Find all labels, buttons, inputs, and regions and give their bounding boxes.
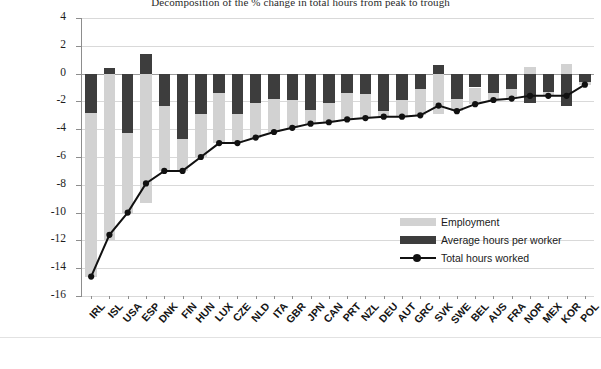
x-tick-label-deu: DEU [376,300,400,325]
total-hours-marker [161,168,167,174]
y-tick-label--12: -12 [8,232,66,244]
x-tick-mark [457,296,458,299]
y-tick-label-2: 2 [8,38,66,50]
x-tick-label-grc: GRC [412,300,437,325]
legend-item-employment: Employment [400,213,600,231]
total-hours-marker [381,114,387,120]
total-hours-marker [179,168,185,174]
x-tick-mark [347,296,348,299]
chart-legend: Employment Average hours per worker Tota… [400,213,600,267]
total-hours-marker [307,121,313,127]
legend-item-average-hours: Average hours per worker [400,231,600,249]
x-tick-label-irl: IRL [87,300,107,321]
chart-title: Decomposition of the % change in total h… [0,0,601,8]
x-tick-mark [91,296,92,299]
x-tick-mark [439,296,440,299]
total-hours-marker [125,210,131,216]
x-tick-mark [128,296,129,299]
x-tick-label-pol: POL [577,300,600,324]
y-tick-label--8: -8 [8,177,66,189]
x-tick-mark [420,296,421,299]
legend-label-employment: Employment [441,216,499,228]
x-tick-label-gbr: GBR [284,300,309,325]
x-tick-mark [365,296,366,299]
total-hours-marker [563,93,569,99]
total-hours-marker [198,154,204,160]
legend-label-total-hours: Total hours worked [441,252,529,264]
x-tick-mark [493,296,494,299]
total-hours-marker [88,273,94,279]
x-tick-mark [201,296,202,299]
x-tick-mark [237,296,238,299]
y-tick-label--10: -10 [8,205,66,217]
total-hours-marker [582,82,588,88]
total-hours-marker [289,125,295,131]
x-tick-mark [311,296,312,299]
total-hours-marker [435,102,441,108]
x-tick-mark [256,296,257,299]
total-hours-marker [326,119,332,125]
total-hours-marker [527,93,533,99]
y-tick-label--2: -2 [8,93,66,105]
y-tick-label--16: -16 [8,288,66,300]
total-hours-marker [545,93,551,99]
x-tick-mark [329,296,330,299]
legend-item-total-hours: Total hours worked [400,249,600,267]
legend-label-average-hours: Average hours per worker [441,234,562,246]
y-tick-label--4: -4 [8,121,66,133]
y-tick-label--6: -6 [8,149,66,161]
total-hours-marker [472,101,478,107]
x-tick-mark [548,296,549,299]
total-hours-marker [417,112,423,118]
x-tick-label-aus: AUS [486,300,510,325]
total-hours-marker [253,134,259,140]
total-hours-marker [362,115,368,121]
x-tick-mark [530,296,531,299]
total-hours-marker [490,97,496,103]
total-hours-marker [454,108,460,114]
x-tick-mark [109,296,110,299]
legend-swatch-employment [400,218,436,226]
total-hours-marker [509,96,515,102]
legend-swatch-total-hours [400,253,436,263]
chart-figure: Decomposition of the % change in total h… [0,0,601,369]
total-hours-marker [399,114,405,120]
x-tick-label-nld: NLD [248,300,271,324]
x-tick-mark [146,296,147,299]
total-hours-marker [143,180,149,186]
x-tick-mark [512,296,513,299]
y-tick-label-0: 0 [8,66,66,78]
y-tick-label-4: 4 [8,10,66,22]
x-tick-label-nzl: NZL [359,300,382,323]
x-tick-label-usa: USA [120,300,144,325]
x-tick-mark [567,296,568,299]
total-hours-marker [106,232,112,238]
x-tick-mark [292,296,293,299]
y-tick-label--14: -14 [8,260,66,272]
bottom-rule [0,337,601,338]
legend-swatch-average-hours [400,236,436,244]
x-tick-mark [475,296,476,299]
total-hours-marker [216,140,222,146]
total-hours-marker [344,116,350,122]
total-hours-marker [271,129,277,135]
x-tick-mark [164,296,165,299]
x-tick-mark [183,296,184,299]
x-axis-labels: IRLISLUSAESPDNKFINHUNLUXCZENLDITAGBRJPNC… [82,296,594,369]
total-hours-marker [234,140,240,146]
x-tick-label-cze: CZE [230,300,253,324]
x-tick-mark [402,296,403,299]
x-tick-mark [219,296,220,299]
x-tick-label-dnk: DNK [156,300,180,325]
y-axis-labels: 420-2-4-6-8-10-12-14-16 [0,0,80,369]
x-tick-mark [585,296,586,299]
x-tick-mark [274,296,275,299]
x-tick-label-mex: MEX [540,300,564,325]
x-tick-mark [384,296,385,299]
